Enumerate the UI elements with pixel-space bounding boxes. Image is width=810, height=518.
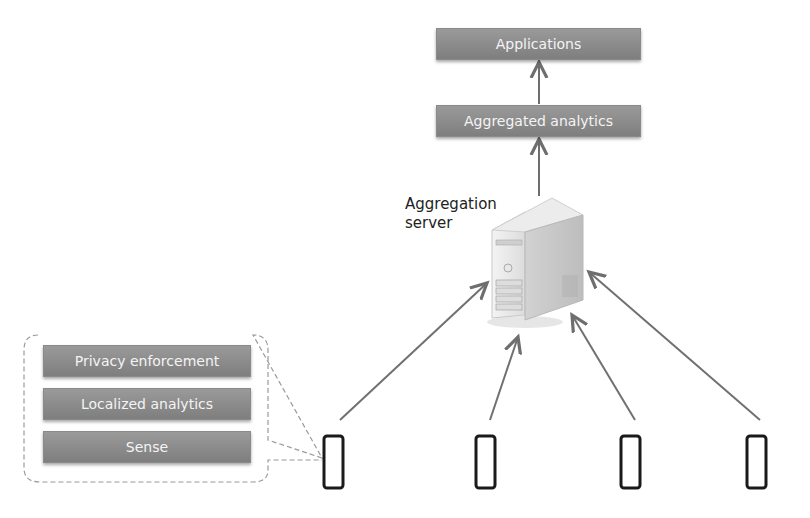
server-label: Aggregation server xyxy=(405,195,497,233)
localized-analytics-box: Localized analytics xyxy=(43,388,251,420)
arrow-device3 xyxy=(572,315,635,420)
arrow-device4 xyxy=(589,272,760,420)
server-icon xyxy=(487,198,583,328)
arrow-device2 xyxy=(490,337,518,420)
aggregated-analytics-box: Aggregated analytics xyxy=(436,105,641,137)
applications-box: Applications xyxy=(436,28,641,60)
server-label-line2: server xyxy=(405,214,497,233)
privacy-enforcement-box: Privacy enforcement xyxy=(43,345,251,377)
arrow-device1 xyxy=(340,283,487,420)
sense-box: Sense xyxy=(43,431,251,463)
phone-icon xyxy=(324,436,766,488)
server-label-line1: Aggregation xyxy=(405,195,497,214)
